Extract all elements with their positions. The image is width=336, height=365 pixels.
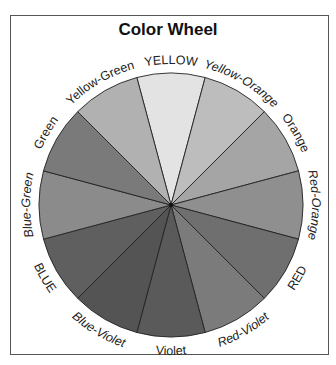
label-blue-green: Blue-Green [19, 171, 37, 239]
label-red-orange: Red-Orange [305, 169, 323, 242]
label-yellow: YELLOW [143, 53, 198, 69]
label-violet: Violet [155, 343, 187, 358]
label-red: RED [285, 263, 310, 292]
color-wheel: YELLOWYellow-OrangeOrangeRed-OrangeREDRe… [0, 0, 336, 365]
wheel-center-dot [169, 203, 173, 207]
